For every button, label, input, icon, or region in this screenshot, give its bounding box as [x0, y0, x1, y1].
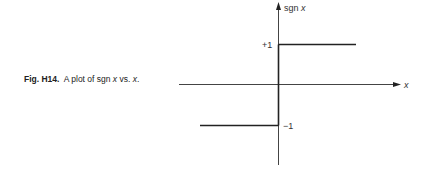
sign-function-plot: sgn x x +1 −1	[0, 0, 425, 170]
y-axis-label: sgn x	[284, 3, 306, 13]
x-axis-label: x	[403, 80, 409, 90]
tick-label-minus-one: −1	[283, 121, 293, 131]
tick-label-plus-one: +1	[262, 40, 272, 50]
x-axis-arrow-icon	[393, 82, 401, 87]
y-axis-arrow-icon	[276, 2, 281, 10]
